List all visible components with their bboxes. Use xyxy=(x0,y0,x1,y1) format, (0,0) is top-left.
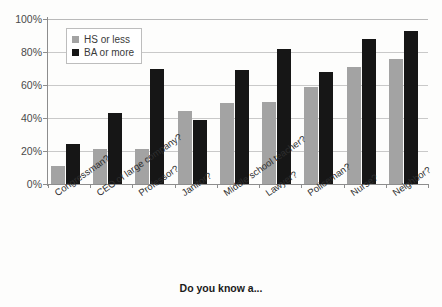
y-axis-tick-label: 0% xyxy=(2,179,42,190)
bar-ba-or-more[interactable] xyxy=(150,69,164,185)
legend-item-ba-or-more[interactable]: BA or more xyxy=(72,46,134,59)
y-axis-tick-mark xyxy=(43,151,47,152)
bar-ba-or-more[interactable] xyxy=(319,72,333,184)
y-axis-tick-mark xyxy=(43,118,47,119)
x-axis-tick-mark xyxy=(428,184,429,188)
y-axis-labels: 0%20%40%60%80%100% xyxy=(0,0,42,307)
x-axis-tick-mark xyxy=(344,184,345,188)
bar-group xyxy=(344,19,386,184)
y-axis-tick-mark xyxy=(43,19,47,20)
bar-group xyxy=(217,19,259,184)
y-axis-tick-label: 20% xyxy=(2,146,42,157)
chart-legend: HS or less BA or more xyxy=(66,28,142,64)
bar-group xyxy=(386,19,428,184)
x-axis-tick-mark xyxy=(301,184,302,188)
legend-label-ba-or-more: BA or more xyxy=(84,48,134,58)
bar-hs-or-less[interactable] xyxy=(304,87,318,184)
bar-ba-or-more[interactable] xyxy=(404,31,418,184)
x-axis-title: Do you know a... xyxy=(0,282,442,294)
bar-ba-or-more[interactable] xyxy=(277,49,291,184)
bar-hs-or-less[interactable] xyxy=(389,59,403,184)
x-axis-tick-mark xyxy=(90,184,91,188)
bar-ba-or-more[interactable] xyxy=(235,70,249,184)
x-axis-tick-mark xyxy=(386,184,387,188)
x-axis-tick-mark xyxy=(132,184,133,188)
bar-ba-or-more[interactable] xyxy=(362,39,376,184)
bar-group xyxy=(301,19,343,184)
x-axis-tick-mark xyxy=(48,184,49,188)
x-axis-tick-mark xyxy=(175,184,176,188)
legend-item-hs-or-less[interactable]: HS or less xyxy=(72,33,134,46)
x-axis-tick-mark xyxy=(259,184,260,188)
legend-swatch-ba-or-more xyxy=(72,49,79,56)
bar-hs-or-less[interactable] xyxy=(178,111,192,184)
bar-chart: 0%20%40%60%80%100% HS or less BA or more… xyxy=(0,0,442,307)
y-axis-tick-mark xyxy=(43,85,47,86)
bar-hs-or-less[interactable] xyxy=(220,103,234,184)
y-axis-tick-mark xyxy=(43,52,47,53)
legend-label-hs-or-less: HS or less xyxy=(84,35,130,45)
y-axis-tick-label: 60% xyxy=(2,80,42,91)
x-axis-tick-mark xyxy=(217,184,218,188)
legend-swatch-hs-or-less xyxy=(72,36,79,43)
y-axis-tick-label: 100% xyxy=(2,14,42,25)
bar-group xyxy=(175,19,217,184)
y-axis-tick-label: 40% xyxy=(2,113,42,124)
y-axis-tick-mark xyxy=(43,184,47,185)
y-axis-tick-label: 80% xyxy=(2,47,42,58)
